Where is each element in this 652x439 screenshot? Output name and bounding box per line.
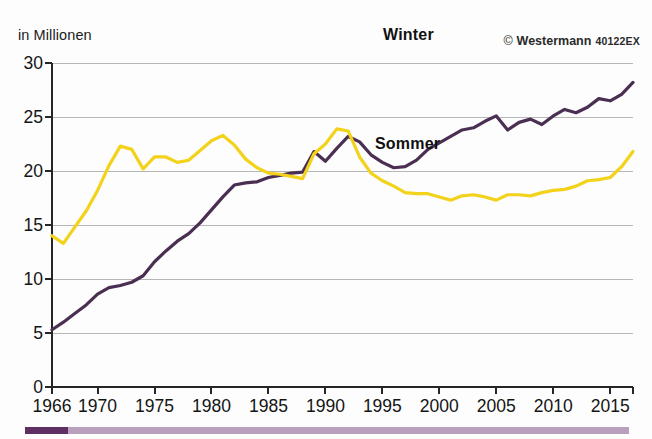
x-tick-label: 1985 xyxy=(249,396,288,417)
series-line-sommer xyxy=(52,129,633,243)
series-label-winter: Winter xyxy=(383,26,434,44)
series-line-winter xyxy=(52,82,633,329)
y-tick-label: 15 xyxy=(24,215,43,236)
y-tick-label: 0 xyxy=(33,377,43,398)
y-tick-label: 10 xyxy=(24,269,43,290)
series-label-sommer: Sommer xyxy=(375,135,440,153)
x-tick-label: 2015 xyxy=(591,396,630,417)
copyright-credit: © Westermann 40122EX xyxy=(503,34,640,48)
publisher-code: 40122EX xyxy=(595,35,640,47)
x-tick-label: 1990 xyxy=(306,396,345,417)
copyright-icon: © xyxy=(503,34,512,48)
x-tick-label: 1995 xyxy=(363,396,402,417)
footer-progress-fill xyxy=(25,427,68,434)
chart-canvas xyxy=(52,63,633,387)
publisher-name: Westermann xyxy=(517,34,592,48)
y-tick-label: 20 xyxy=(24,161,43,182)
y-tick-label: 30 xyxy=(24,53,43,74)
x-tick-label: 1966 xyxy=(33,396,72,417)
y-tick-label: 25 xyxy=(24,107,43,128)
x-tick-label: 2000 xyxy=(420,396,459,417)
x-tick-label: 1970 xyxy=(78,396,117,417)
plot-area: 0510152025301966197019751980198519901995… xyxy=(52,63,633,387)
x-tick-label: 2005 xyxy=(477,396,516,417)
x-tick-label: 2010 xyxy=(534,396,573,417)
y-tick-label: 5 xyxy=(33,323,43,344)
x-tick-label: 1975 xyxy=(135,396,174,417)
chart-root: in Millionen © Westermann 40122EX 051015… xyxy=(0,0,652,439)
x-tick-label: 1980 xyxy=(192,396,231,417)
y-axis-unit-label: in Millionen xyxy=(18,27,92,43)
footer-progress-track xyxy=(25,427,629,434)
